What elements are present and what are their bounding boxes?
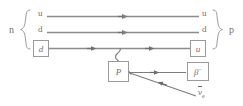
neutron-brace — [21, 10, 31, 49]
boxed-up-quark-label: u — [196, 44, 201, 54]
boxed-w-boson: P — [108, 61, 129, 82]
boxed-electron: β− — [187, 62, 209, 81]
boxed-w-boson-label: P — [116, 67, 122, 77]
antineutrino-line — [129, 73, 197, 97]
boxed-down-quark: d — [33, 40, 49, 57]
proton-brace — [213, 10, 223, 49]
neutron-label: n — [9, 25, 14, 35]
boxed-up-quark: u — [190, 40, 206, 57]
quark-label-left-u1: u — [38, 9, 43, 18]
feynman-diagram-beta-decay: n p u u d d d u P β− νe — [0, 0, 243, 106]
boxed-down-quark-label: d — [39, 44, 44, 54]
boxed-electron-label: β− — [194, 66, 202, 77]
antineutrino-label: νe — [198, 88, 205, 99]
quark-label-right-d: d — [202, 25, 207, 34]
quark-label-left-d: d — [38, 25, 43, 34]
quark-label-right-u1: u — [202, 9, 207, 18]
proton-label: p — [229, 25, 234, 35]
